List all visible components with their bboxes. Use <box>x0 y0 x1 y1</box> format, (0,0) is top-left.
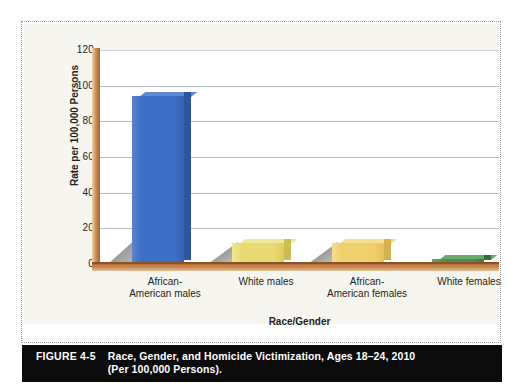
x-tick-line-4a: White females <box>410 276 525 288</box>
y-tick-0: 0 <box>54 258 94 269</box>
bar-african-american-females[interactable] <box>332 243 384 264</box>
bar-white-males[interactable] <box>232 243 284 264</box>
x-tick-line-1a: African- <box>106 276 224 288</box>
x-tick-african-american-males: African- American males <box>106 276 224 300</box>
y-tick-80: 80 <box>54 115 94 126</box>
chart-panel: Rate per 100,000 Persons 120 100 80 60 4… <box>24 24 498 324</box>
x-axis-line <box>92 264 499 271</box>
bar-front-face-2 <box>232 243 284 264</box>
x-axis-title: Race/Gender <box>100 316 499 327</box>
figure-caption-bar: FIGURE 4-5 Race, Gender, and Homicide Vi… <box>22 345 502 382</box>
y-tick-100: 100 <box>54 80 94 91</box>
y-axis-line <box>92 48 100 268</box>
x-tick-white-females: White females <box>410 276 525 288</box>
bar-series <box>100 50 499 264</box>
bar-slot-white-males <box>222 50 308 264</box>
figure-caption-row: FIGURE 4-5 Race, Gender, and Homicide Vi… <box>36 350 502 376</box>
figure-caption-line-1: Race, Gender, and Homicide Victimization… <box>108 350 416 363</box>
y-tick-40: 40 <box>54 187 94 198</box>
bar-side-face-1 <box>184 92 191 260</box>
bar-side-face-4 <box>484 255 491 260</box>
figure-caption-line-2: (Per 100,000 Persons). <box>108 363 416 376</box>
figure-root: Rate per 100,000 Persons 120 100 80 60 4… <box>0 0 525 389</box>
bar-side-face-3 <box>384 239 391 260</box>
bar-side-face-2 <box>284 239 291 260</box>
y-axis-tick-labels: 120 100 80 60 40 20 0 <box>50 50 94 264</box>
x-axis-tick-labels: African- American males White males Afri… <box>100 276 499 316</box>
y-tick-20: 20 <box>54 222 94 233</box>
y-tick-120: 120 <box>54 44 94 55</box>
y-tick-60: 60 <box>54 151 94 162</box>
bar-african-american-males[interactable] <box>132 96 184 264</box>
plot-area-wrapper <box>100 50 499 264</box>
bar-slot-african-american-females <box>322 50 408 264</box>
x-tick-line-1b: American males <box>106 288 224 300</box>
figure-caption-text: Race, Gender, and Homicide Victimization… <box>108 350 416 376</box>
bar-front-face-1 <box>132 96 184 264</box>
x-tick-line-3b: American females <box>304 288 430 300</box>
bar-slot-white-females <box>422 50 508 264</box>
bar-front-face-3 <box>332 243 384 264</box>
figure-number-label: FIGURE 4-5 <box>36 350 96 362</box>
bar-slot-african-american-males <box>122 50 208 264</box>
